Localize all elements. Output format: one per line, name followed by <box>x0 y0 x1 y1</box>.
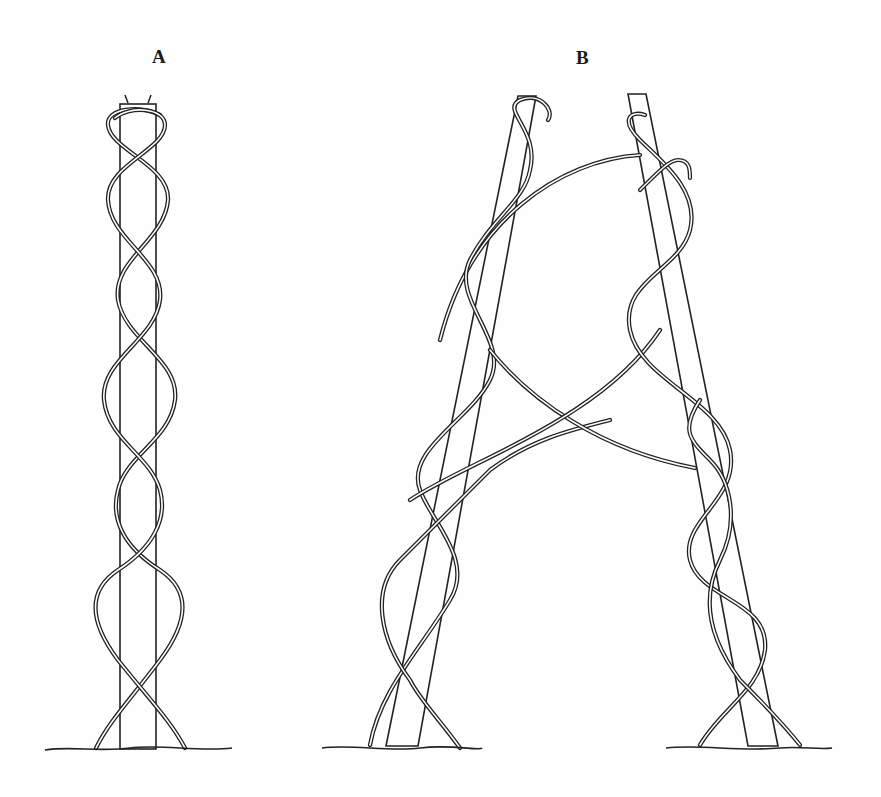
vine-tip-icon <box>125 95 151 103</box>
ground-line-b-right <box>666 747 832 749</box>
panel-a-drawing <box>45 95 232 750</box>
panel-b-drawing <box>322 94 832 749</box>
vine-illustration <box>0 0 881 797</box>
support-pole-b-right <box>628 94 778 746</box>
figure-canvas: A B <box>0 0 881 797</box>
support-pole-b-left <box>386 96 536 746</box>
support-pole-a <box>120 104 156 749</box>
